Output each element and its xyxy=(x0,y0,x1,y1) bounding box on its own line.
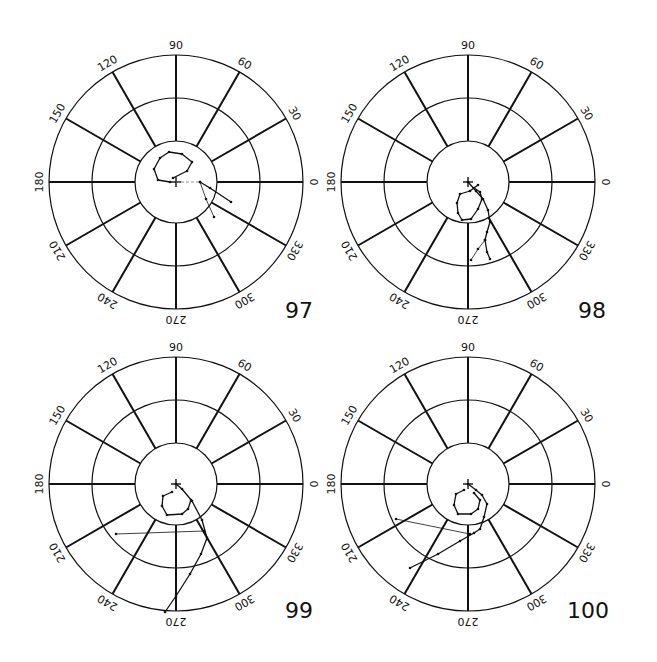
spoke-210 xyxy=(358,203,432,246)
trace-point xyxy=(467,181,470,184)
trace-point xyxy=(115,533,118,536)
trace-point xyxy=(470,259,473,262)
angle-label-30: 30 xyxy=(577,104,595,123)
angle-label-60: 60 xyxy=(527,54,546,72)
trace-point xyxy=(395,518,398,521)
trace-point xyxy=(203,530,206,533)
trace-point xyxy=(437,553,440,556)
spoke-60 xyxy=(197,72,240,146)
trace-point xyxy=(162,495,165,498)
trace-point xyxy=(186,170,189,173)
trace-point xyxy=(189,573,192,576)
spoke-240 xyxy=(405,218,448,292)
spoke-300 xyxy=(489,218,532,292)
angle-label-90: 90 xyxy=(461,341,475,354)
trace-point xyxy=(483,516,486,519)
trace-point xyxy=(172,177,175,180)
angle-label-330: 330 xyxy=(284,540,306,565)
trace-point xyxy=(157,179,160,182)
spoke-240 xyxy=(405,520,448,594)
polar-plot-97: 0306090120150180210240270300330 xyxy=(33,39,320,326)
trace-point xyxy=(230,201,233,204)
angle-label-90: 90 xyxy=(169,341,183,354)
spoke-240 xyxy=(113,520,156,594)
angle-label-180: 180 xyxy=(33,474,46,495)
angle-label-120: 120 xyxy=(95,53,120,75)
angle-label-150: 150 xyxy=(339,101,361,126)
trace-point xyxy=(164,611,167,614)
trace-point xyxy=(187,508,190,511)
angle-label-30: 30 xyxy=(577,406,595,425)
trace-point xyxy=(457,212,460,215)
angle-label-90: 90 xyxy=(461,39,475,52)
angle-label-90: 90 xyxy=(169,39,183,52)
angle-label-180: 180 xyxy=(325,172,338,193)
spoke-210 xyxy=(66,505,140,548)
trace-point xyxy=(469,190,472,193)
trace-point xyxy=(486,251,489,254)
plot-label-100: 100 xyxy=(567,598,609,623)
angle-label-300: 300 xyxy=(524,290,549,312)
angle-label-60: 60 xyxy=(235,54,254,72)
trace-point xyxy=(171,491,174,494)
trace-point xyxy=(200,553,203,556)
trace-point xyxy=(205,198,208,201)
trace-point xyxy=(477,184,480,187)
angle-label-300: 300 xyxy=(232,592,257,614)
trace-point xyxy=(199,181,202,184)
trace-point xyxy=(484,239,487,242)
trace-point xyxy=(213,216,216,219)
angle-label-210: 210 xyxy=(339,540,361,565)
angle-label-240: 240 xyxy=(95,290,120,312)
spoke-120 xyxy=(113,374,156,448)
angle-label-30: 30 xyxy=(285,104,303,123)
trace-point xyxy=(489,258,492,261)
trace-point xyxy=(473,492,476,495)
trace-point xyxy=(456,202,459,205)
spoke-150 xyxy=(358,119,432,162)
trace-point xyxy=(461,219,464,222)
spoke-30 xyxy=(504,119,578,162)
trace-point xyxy=(467,483,470,486)
trace-point xyxy=(475,489,478,492)
trace-point xyxy=(457,513,460,516)
trace-point xyxy=(481,198,484,201)
spoke-150 xyxy=(66,119,140,162)
spoke-60 xyxy=(489,72,532,146)
trace-point xyxy=(479,499,482,502)
angle-label-240: 240 xyxy=(387,592,412,614)
angle-label-60: 60 xyxy=(235,356,254,374)
spoke-210 xyxy=(358,505,432,548)
trace-point xyxy=(463,489,466,492)
angle-label-240: 240 xyxy=(95,592,120,614)
trace-point xyxy=(486,231,489,234)
trace-point xyxy=(459,193,462,196)
spoke-330 xyxy=(504,203,578,246)
spoke-300 xyxy=(197,218,240,292)
trajectory-trace xyxy=(396,519,470,534)
angle-label-120: 120 xyxy=(387,355,412,377)
trace-point xyxy=(201,519,204,522)
angle-label-300: 300 xyxy=(524,592,549,614)
trace-point xyxy=(181,488,184,491)
trace-point xyxy=(181,153,184,156)
angle-label-180: 180 xyxy=(33,172,46,193)
trace-point xyxy=(469,533,472,536)
trace-point xyxy=(206,537,209,540)
angle-label-180: 180 xyxy=(325,474,338,495)
polar-plot-100: 0306090120150180210240270300330 xyxy=(325,341,612,628)
trace-point xyxy=(191,161,194,164)
trace-point xyxy=(477,508,480,511)
trace-point xyxy=(153,168,156,171)
trace-point xyxy=(181,513,184,516)
plot-label-99: 99 xyxy=(285,598,313,623)
trace-point xyxy=(455,493,458,496)
spoke-30 xyxy=(504,421,578,464)
angle-label-330: 330 xyxy=(576,238,598,263)
spoke-240 xyxy=(113,218,156,292)
trace-point xyxy=(175,595,178,598)
plot-label-98: 98 xyxy=(578,298,606,323)
spoke-30 xyxy=(212,119,286,162)
trace-point xyxy=(459,540,462,543)
trace-point xyxy=(409,567,412,570)
